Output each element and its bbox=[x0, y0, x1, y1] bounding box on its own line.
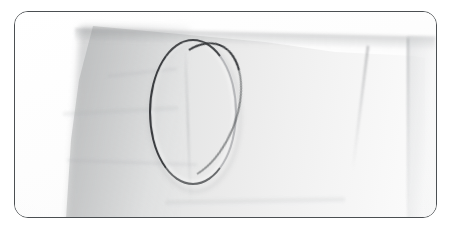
metal-ring bbox=[149, 39, 237, 185]
photo-frame[interactable] bbox=[14, 11, 437, 218]
crease-right-outer bbox=[407, 38, 409, 217]
sheet-right-panel bbox=[407, 36, 436, 217]
photo-canvas bbox=[15, 12, 436, 217]
photo-caption: A thin elliptical metal ring resting on … bbox=[0, 0, 1, 1]
photo-viewer: A thin elliptical metal ring resting on … bbox=[0, 0, 451, 229]
